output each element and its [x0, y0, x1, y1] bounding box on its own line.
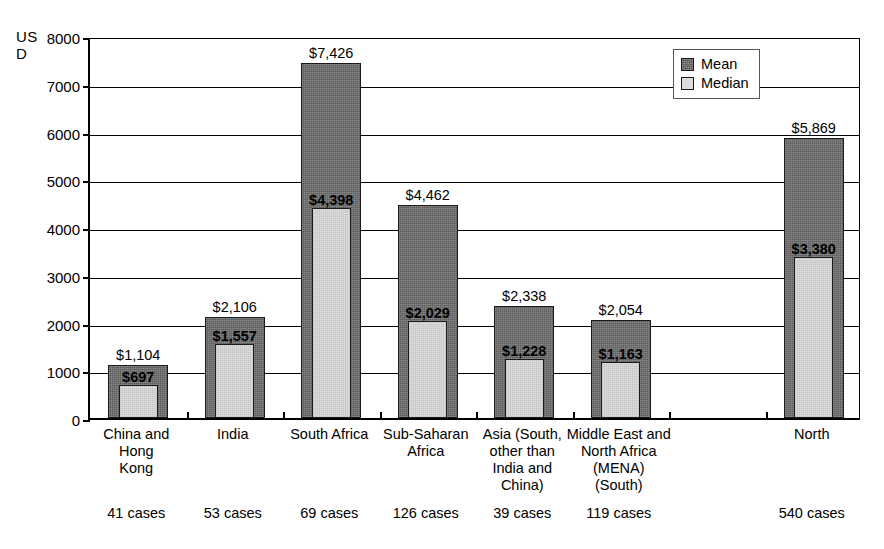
bar-value-label-median: $2,029 [373, 306, 483, 321]
y-axis-tick-label: 3000 [10, 270, 80, 285]
bar-value-label-median: $3,380 [759, 242, 869, 257]
x-axis-category-label-line: Middle East and [567, 426, 672, 443]
bar-value-label-median: $1,228 [469, 344, 579, 359]
case-count-label: 39 cases [470, 505, 575, 521]
x-axis-tick-mark [380, 412, 382, 419]
legend-item-mean: Mean [681, 55, 749, 74]
bar-median [408, 321, 447, 418]
y-axis-tick-label: 7000 [10, 79, 80, 94]
bar-median [215, 344, 254, 418]
bar-median [119, 385, 158, 418]
legend-label-median: Median [701, 76, 749, 91]
x-axis-category-label-line: Asia (South, [470, 426, 575, 443]
y-axis-tick-mark [83, 181, 90, 183]
bar-value-label-median: $1,163 [566, 347, 676, 362]
y-axis-tick-mark [83, 277, 90, 279]
x-axis-category-label-line: other than [470, 443, 575, 460]
x-axis-category-label-line: North Africa [567, 443, 672, 460]
x-axis-tick-mark [476, 412, 478, 419]
bar-median [601, 362, 640, 418]
x-axis-category-label-line: India and [470, 460, 575, 477]
bar-chart: US D $1,104$697$2,106$1,557$7,426$4,398$… [0, 0, 884, 549]
legend-item-median: Median [681, 74, 749, 93]
bar-value-label-mean: $5,869 [759, 121, 869, 136]
case-count-label: 119 cases [567, 505, 672, 521]
y-axis-tick-label: 4000 [10, 222, 80, 237]
y-axis-tick-label: 6000 [10, 127, 80, 142]
case-count-label: 126 cases [374, 505, 479, 521]
case-count-label: 41 cases [84, 505, 189, 521]
x-axis-category-label-line: China) [470, 477, 575, 494]
y-axis-tick-label: 2000 [10, 318, 80, 333]
y-axis-tick-label: 0 [10, 413, 80, 428]
gridline [90, 230, 859, 231]
case-count-label: 53 cases [181, 505, 286, 521]
bar-value-label-mean: $4,462 [373, 188, 483, 203]
y-axis-tick-mark [83, 134, 90, 136]
y-axis-tick-label: 1000 [10, 365, 80, 380]
x-axis-tick-mark [283, 412, 285, 419]
x-axis-category-label: Asia (South,other thanIndia andChina) [470, 426, 575, 494]
gridline [90, 182, 859, 183]
x-axis-tick-mark [573, 412, 575, 419]
bar-value-label-median: $697 [83, 370, 193, 385]
gridline [90, 135, 859, 136]
legend-swatch-mean-icon [681, 58, 694, 71]
bar-value-label-median: $4,398 [276, 193, 386, 208]
x-axis-tick-mark [187, 412, 189, 419]
x-axis-category-label: North [760, 426, 865, 443]
chart-legend: Mean Median [673, 49, 760, 99]
case-count-label: 540 cases [760, 505, 865, 521]
x-axis-category-label-line: China and Hong [84, 426, 189, 460]
bar-value-label-mean: $2,338 [469, 289, 579, 304]
legend-label-mean: Mean [701, 57, 737, 72]
x-axis-category-label-line: South Africa [277, 426, 382, 443]
bar-value-label-mean: $1,104 [83, 348, 193, 363]
x-axis-category-label-line: (South) [567, 477, 672, 494]
y-axis-tick-mark [83, 38, 90, 40]
bar-median [794, 257, 833, 418]
y-axis-tick-mark [83, 420, 90, 422]
y-axis-tick-label: 5000 [10, 174, 80, 189]
x-axis-category-label: Middle East andNorth Africa(MENA)(South) [567, 426, 672, 494]
case-count-label: 69 cases [277, 505, 382, 521]
y-axis-tick-mark [83, 229, 90, 231]
bar-value-label-mean: $2,054 [566, 303, 676, 318]
gridline [90, 278, 859, 279]
bar-median [505, 359, 544, 418]
y-axis-title-line-2: D [16, 45, 50, 62]
legend-swatch-median-icon [681, 77, 694, 90]
x-axis-category-label-line: Africa [374, 443, 479, 460]
y-axis-tick-mark [83, 86, 90, 88]
y-axis-tick-mark [83, 325, 90, 327]
bar-value-label-mean: $2,106 [180, 300, 290, 315]
bar-value-label-median: $1,557 [180, 329, 290, 344]
bar-value-label-mean: $7,426 [276, 46, 386, 61]
x-axis-category-label: Sub-SaharanAfrica [374, 426, 479, 460]
x-axis-category-label-line: North [760, 426, 865, 443]
x-axis-category-label-line: India [181, 426, 286, 443]
x-axis-category-label: South Africa [277, 426, 382, 443]
x-axis-category-label-line: Kong [84, 460, 189, 477]
y-axis-tick-label: 8000 [10, 31, 80, 46]
x-axis-tick-mark [766, 412, 768, 419]
x-axis-category-label: China and HongKong [84, 426, 189, 477]
x-axis-category-label-line: Sub-Saharan [374, 426, 479, 443]
x-axis-tick-mark [669, 412, 671, 419]
x-axis-category-label-line: (MENA) [567, 460, 672, 477]
x-axis-category-label: India [181, 426, 286, 443]
bar-median [312, 208, 351, 418]
